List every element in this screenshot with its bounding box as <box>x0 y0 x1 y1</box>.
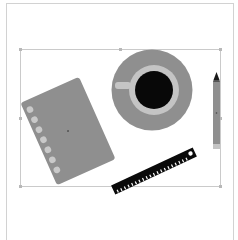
pencil-tip <box>214 72 220 80</box>
cup-handle <box>115 82 131 89</box>
coffee <box>135 71 173 109</box>
coffee-cup[interactable] <box>112 50 193 131</box>
ruler[interactable] <box>111 147 197 194</box>
pencil[interactable] <box>213 72 220 149</box>
notebook[interactable] <box>20 77 115 185</box>
design-canvas[interactable] <box>0 0 238 240</box>
pencil-eraser <box>213 144 220 149</box>
